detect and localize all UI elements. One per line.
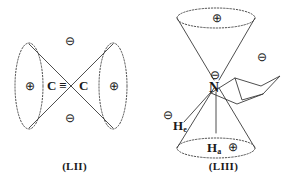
charge-nitrogen-minus: ⊖ <box>209 70 220 81</box>
charge-right-plus: ⊕ <box>108 81 119 92</box>
charge-hydrogen-equatorial-minus: ⊖ <box>162 110 173 121</box>
carbon-right-label: C <box>79 79 88 92</box>
nitrogen-label: N <box>209 81 219 95</box>
bond-n-equatorial-h <box>184 92 211 122</box>
charge-left-plus: ⊕ <box>24 81 35 92</box>
caption-liii: (LIII) <box>149 160 298 172</box>
cone-side-bottom-right <box>219 88 255 148</box>
charge-top-minus: ⊖ <box>64 36 75 47</box>
chemistry-figure: C ≡ C ⊖ ⊖ ⊕ ⊕ (LII) <box>0 0 298 192</box>
hydrogen-axial-label: Ha <box>207 141 221 154</box>
charge-hydrogen-axial-plus: ⊕ <box>227 142 238 153</box>
cone-side-top-right <box>219 18 255 80</box>
charge-bottom-minus: ⊖ <box>64 113 75 124</box>
structure-liii: N He Ha ⊕ ⊖ ⊖ ⊖ ⊕ (LIII) <box>149 0 298 192</box>
caption-lii: (LII) <box>0 160 149 172</box>
charge-top-cone-plus: ⊕ <box>211 13 222 24</box>
chair-ring-back-edge <box>235 78 263 100</box>
carbon-left-label: C <box>47 79 56 92</box>
triple-bond-glyph: ≡ <box>59 79 66 92</box>
hydrogen-equatorial-label: He <box>173 119 187 132</box>
charge-right-cone-minus: ⊖ <box>256 52 267 63</box>
cone-line-right-top <box>71 44 113 86</box>
cone-line-right-bottom <box>71 86 113 128</box>
structure-lii: C ≡ C ⊖ ⊖ ⊕ ⊕ (LII) <box>0 0 149 192</box>
chair-ring <box>211 76 280 104</box>
